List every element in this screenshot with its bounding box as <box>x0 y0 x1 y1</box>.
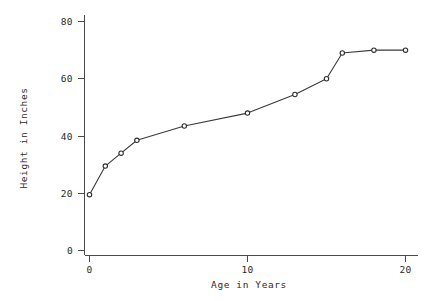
data-point-marker <box>372 48 376 52</box>
y-tick-label-40: 40 <box>61 131 73 142</box>
x-axis-title: Age in Years <box>211 279 287 290</box>
data-point-marker <box>324 77 328 81</box>
data-point-marker <box>87 192 91 196</box>
y-axis-title: Height in Inches <box>18 87 29 188</box>
data-point-marker <box>245 111 249 115</box>
data-point-marker <box>403 48 407 52</box>
data-point-marker <box>340 51 344 55</box>
data-point-marker <box>103 164 107 168</box>
y-tick-label-20: 20 <box>61 188 73 199</box>
x-tick-label-20: 20 <box>399 264 411 275</box>
data-point-marker <box>182 124 186 128</box>
y-tick-label-60: 60 <box>61 73 73 84</box>
y-tick-label-80: 80 <box>61 16 73 27</box>
x-tick-label-0: 0 <box>86 264 92 275</box>
data-point-marker <box>119 151 123 155</box>
height-vs-age-line-chart: 80 60 40 20 0 0 10 20 Age in Years Heigh… <box>0 0 425 301</box>
data-point-marker <box>293 92 297 96</box>
x-tick-label-10: 10 <box>241 264 253 275</box>
chart-screenshot: 80 60 40 20 0 0 10 20 Age in Years Heigh… <box>0 0 425 301</box>
y-tick-label-0: 0 <box>67 245 73 256</box>
data-point-marker <box>135 138 139 142</box>
